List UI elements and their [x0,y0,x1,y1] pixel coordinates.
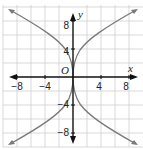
y-tick-8: 8 [63,20,69,31]
x-axis-left-arrow-icon [9,74,17,80]
y-tick-neg8: −8 [58,127,70,138]
curve-upper-right [73,10,136,77]
y-tick-neg4: −4 [58,99,70,110]
x-axis-label: x [127,62,133,74]
y-axis-down-arrow-icon [70,136,76,144]
x-tick-4: 4 [96,81,102,92]
y-axis-up-arrow-icon [70,13,76,21]
y-axis-label: y [77,8,83,20]
x-tick-neg8: −8 [11,81,23,92]
x-tick-neg4: −4 [39,81,51,92]
x-axis-right-arrow-icon [130,74,138,80]
origin-label: O [61,64,69,76]
x-tick-8: 8 [123,81,129,92]
graph: −8 −4 4 8 8 4 −4 −8 x y O [0,0,143,149]
y-tick-4: 4 [63,46,69,57]
